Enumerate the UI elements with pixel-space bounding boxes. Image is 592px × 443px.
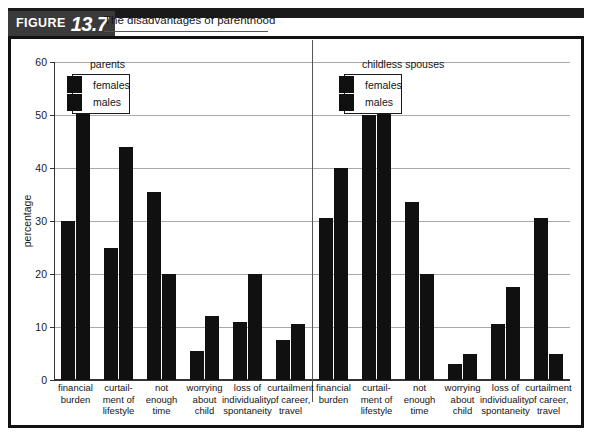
y-tick-mark <box>50 380 55 381</box>
bar-childless-spouses-males <box>334 168 348 380</box>
legend-swatch-females <box>339 76 354 93</box>
bar-childless-spouses-males <box>463 354 477 381</box>
y-tick-mark <box>50 221 55 222</box>
figure-tag: FIGURE 13.7 <box>8 11 115 36</box>
y-axis-title: percentage <box>20 62 34 380</box>
bar-parents-males <box>162 274 176 380</box>
category-label-row: financialburdencurtail-ment oflifestylen… <box>54 382 570 426</box>
legend-box-right: femalesmales <box>344 74 402 114</box>
legend-title-right: childless spouses <box>362 58 444 70</box>
legend-swatch-females <box>67 76 82 93</box>
y-tick-mark <box>50 274 55 275</box>
y-tick-mark <box>50 327 55 328</box>
legend-label-males: males <box>365 94 393 111</box>
y-tick-label: 40 <box>35 162 47 174</box>
category-label-line: travel <box>263 405 318 417</box>
figure-root: FIGURE 13.7 The disadvantages of parenth… <box>0 0 592 443</box>
legend-label-females: females <box>365 77 393 94</box>
bar-childless-spouses-females <box>491 324 505 380</box>
y-tick-label: 20 <box>35 268 47 280</box>
y-tick-label: 0 <box>41 374 47 386</box>
y-tick-mark <box>50 62 55 63</box>
bar-childless-spouses-males <box>506 287 520 380</box>
bar-childless-spouses-males <box>377 86 391 380</box>
category-label-line: curtailment <box>521 382 576 394</box>
y-tick-label: 50 <box>35 109 47 121</box>
bar-parents-females <box>276 340 290 380</box>
bar-parents-males <box>205 316 219 380</box>
category-label-line: of career, <box>521 394 576 406</box>
bar-parents-males <box>291 324 305 380</box>
legend-swatch-males <box>339 94 354 111</box>
bar-childless-spouses-males <box>549 354 563 381</box>
legend-label-females: females <box>93 77 121 94</box>
title-underline <box>104 31 268 32</box>
legend-title-left: parents <box>90 58 125 70</box>
legend-swatch-males <box>67 94 82 111</box>
legend-box-left: femalesmales <box>72 74 130 114</box>
bar-parents-females <box>104 248 118 381</box>
bar-parents-females <box>190 351 204 380</box>
legend-left: parentsfemalesmales <box>72 74 130 114</box>
y-tick-mark <box>50 115 55 116</box>
bar-parents-females <box>147 192 161 380</box>
legend-label-males: males <box>93 94 121 111</box>
bar-childless-spouses-females <box>405 202 419 380</box>
bar-childless-spouses-males <box>420 274 434 380</box>
figure-tag-number: 13.7 <box>71 14 108 34</box>
y-tick-label: 60 <box>35 56 47 68</box>
bar-childless-spouses-females <box>319 218 333 380</box>
bar-parents-males <box>119 147 133 380</box>
y-tick-mark <box>50 168 55 169</box>
figure-tag-word: FIGURE <box>16 17 66 30</box>
panel-divider <box>312 40 313 402</box>
bar-parents-females <box>61 221 75 380</box>
bar-parents-males <box>248 274 262 380</box>
bar-parents-females <box>233 322 247 380</box>
category-label-line: travel <box>521 405 576 417</box>
category-label: curtailmentof career,travel <box>521 382 576 417</box>
plot-area: 0102030405060parentsfemalesmaleschildles… <box>54 62 570 380</box>
y-tick-label: 10 <box>35 321 47 333</box>
legend-right: childless spousesfemalesmales <box>344 74 402 114</box>
bar-childless-spouses-females <box>362 115 376 380</box>
y-tick-label: 30 <box>35 215 47 227</box>
y-axis-title-label: percentage <box>21 195 33 248</box>
bar-parents-males <box>76 110 90 380</box>
bar-childless-spouses-females <box>448 364 462 380</box>
figure-title: The disadvantages of parenthood <box>104 14 275 26</box>
bar-childless-spouses-females <box>534 218 548 380</box>
